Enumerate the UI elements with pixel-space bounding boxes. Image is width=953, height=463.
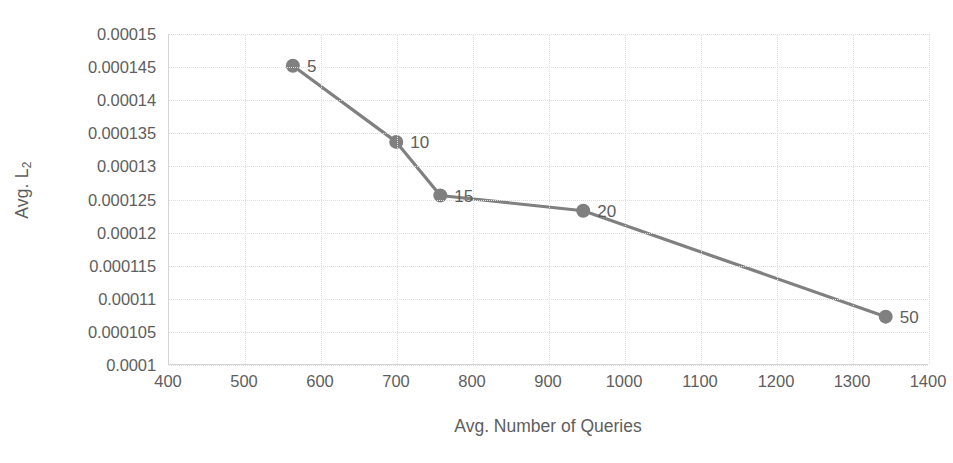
x-axis-title: Avg. Number of Queries	[168, 416, 928, 437]
data-point-label: 10	[410, 133, 429, 153]
x-axis-tick-label: 500	[230, 372, 258, 391]
x-axis-tick-label: 1200	[758, 372, 795, 391]
x-axis-tick-label: 1000	[606, 372, 643, 391]
gridline-vertical	[397, 34, 398, 364]
gridline-vertical	[701, 34, 702, 364]
x-axis-tick-label: 800	[458, 372, 486, 391]
y-axis-tick-label: 0.000105	[88, 322, 156, 341]
x-axis-tick-labels: 40050060070080090010001100120013001400	[168, 372, 928, 398]
x-axis-tick-label: 900	[534, 372, 562, 391]
data-point-marker	[576, 204, 590, 218]
gridline-vertical	[929, 34, 930, 364]
x-axis-tick-label: 1100	[682, 372, 717, 391]
y-axis-tick-label: 0.000135	[88, 124, 156, 143]
y-axis-tick-label: 0.00013	[97, 157, 156, 176]
y-axis-tick-label: 0.000125	[88, 190, 156, 209]
data-point-label: 50	[900, 308, 919, 328]
y-axis-title-text: Avg. L2	[12, 161, 34, 218]
y-axis-tick-label: 0.00012	[97, 223, 156, 242]
y-axis-title: Avg. L2	[0, 0, 46, 380]
gridline-vertical	[321, 34, 322, 364]
data-point-label: 20	[597, 202, 616, 222]
data-point-label: 5	[307, 57, 316, 77]
x-axis-tick-label: 700	[382, 372, 410, 391]
y-axis-tick-labels: 0.000150.0001450.000140.0001350.000130.0…	[46, 34, 164, 365]
y-axis-tick-label: 0.00015	[97, 25, 156, 44]
gridline-vertical	[549, 34, 550, 364]
y-axis-tick-label: 0.0001	[106, 356, 156, 375]
data-point-marker	[879, 310, 893, 324]
x-axis-tick-label: 1400	[910, 372, 947, 391]
y-axis-tick-label: 0.00011	[98, 289, 156, 308]
gridline-horizontal	[169, 365, 928, 366]
data-point-label: 15	[454, 187, 473, 207]
gridline-vertical	[853, 34, 854, 364]
gridline-vertical	[245, 34, 246, 364]
plot-area: 510152050	[168, 34, 928, 365]
y-axis-tick-label: 0.000145	[88, 58, 156, 77]
gridline-vertical	[777, 34, 778, 364]
series-line	[293, 66, 886, 317]
data-point-marker	[286, 59, 300, 73]
x-axis-tick-label: 1300	[834, 372, 871, 391]
line-chart: Avg. L2 0.000150.0001450.000140.0001350.…	[0, 0, 953, 463]
x-axis-tick-label: 600	[306, 372, 334, 391]
x-axis-tick-label: 400	[154, 372, 182, 391]
y-axis-tick-label: 0.000115	[89, 256, 156, 275]
y-axis-title-base: Avg. L	[12, 168, 32, 219]
y-axis-tick-label: 0.00014	[97, 91, 156, 110]
y-axis-title-subscript: 2	[20, 161, 34, 168]
gridline-vertical	[625, 34, 626, 364]
